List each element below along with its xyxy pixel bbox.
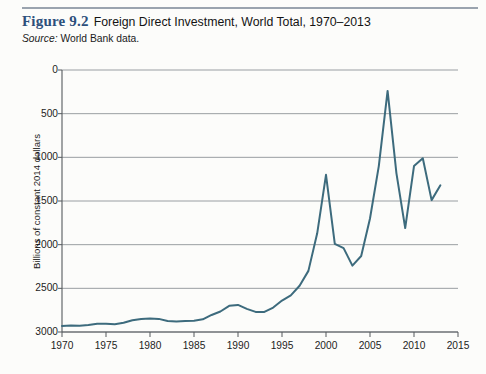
y-tick-label: 1000 (18, 152, 58, 162)
y-tick-label-wrap: 3000 (18, 327, 58, 337)
y-tick-label: 1500 (18, 196, 58, 206)
y-tick-label-wrap: 0 (18, 65, 58, 75)
y-tick-label-wrap: 1000 (18, 152, 58, 162)
x-tick-label: 1995 (262, 340, 302, 351)
x-tick-label: 1975 (86, 340, 126, 351)
x-tick-label: 2005 (350, 340, 390, 351)
x-tick-label: 2015 (438, 340, 478, 351)
x-tick-label: 2000 (306, 340, 346, 351)
x-tick-label: 1990 (218, 340, 258, 351)
y-tick-label-wrap: 1500 (18, 196, 58, 206)
x-tick-label: 1980 (130, 340, 170, 351)
x-tick-label: 1970 (42, 340, 82, 351)
y-tick-label: 500 (18, 109, 58, 119)
line-chart-svg (0, 0, 486, 374)
y-tick-label: 2000 (18, 240, 58, 250)
y-tick-label-wrap: 2500 (18, 283, 58, 293)
y-tick-label: 3000 (18, 327, 58, 337)
figure-container: Figure 9.2Foreign Direct Investment, Wor… (0, 0, 486, 374)
x-tick-label: 1985 (174, 340, 214, 351)
x-tick-label: 2010 (394, 340, 434, 351)
data-series-line (62, 91, 440, 326)
y-tick-label-wrap: 500 (18, 109, 58, 119)
y-tick-label: 2500 (18, 283, 58, 293)
y-tick-label: 0 (18, 65, 58, 75)
y-tick-label-wrap: 2000 (18, 240, 58, 250)
chart-plot-area: Billions of constant 2014 dollars 300025… (0, 0, 486, 374)
